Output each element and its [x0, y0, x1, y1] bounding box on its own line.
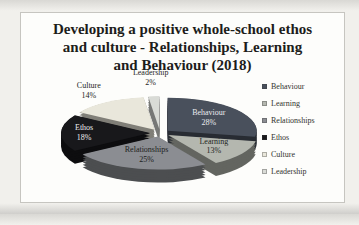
legend: BehaviourLearningRelationshipsEthosCultu… [262, 78, 315, 180]
legend-item-behaviour: Behaviour [262, 78, 315, 95]
legend-label: Behaviour [271, 82, 304, 91]
pie-slice-behaviour [168, 98, 257, 137]
legend-marker-icon [262, 152, 267, 157]
legend-item-culture: Culture [262, 146, 315, 163]
legend-marker-icon [262, 84, 267, 89]
legend-label: Leadership [271, 167, 307, 176]
legend-item-ethos: Ethos [262, 129, 315, 146]
legend-marker-icon [262, 135, 267, 140]
legend-item-relationships: Relationships [262, 112, 315, 129]
legend-label: Culture [271, 150, 295, 159]
legend-label: Relationships [271, 116, 315, 125]
page-background: { "chart_data": { "type": "pie", "style"… [0, 0, 359, 214]
legend-item-learning: Learning [262, 95, 315, 112]
legend-marker-icon [262, 118, 267, 123]
legend-item-leadership: Leadership [262, 163, 315, 180]
legend-marker-icon [262, 101, 267, 106]
legend-label: Ethos [271, 133, 289, 142]
legend-marker-icon [262, 169, 267, 174]
legend-label: Learning [271, 99, 300, 108]
